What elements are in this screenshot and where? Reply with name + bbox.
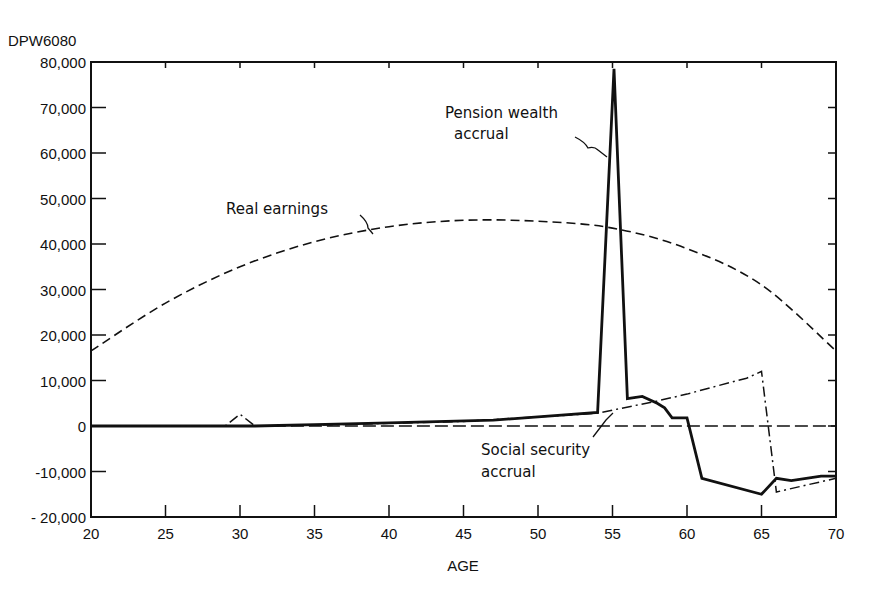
x-tick-label: 45 <box>455 525 472 542</box>
annotation-real-earnings: Real earnings <box>226 200 328 218</box>
y-tick-label: -10,000 <box>35 464 86 481</box>
annotation-ss-line1: Social security <box>481 441 590 459</box>
x-tick-label: 65 <box>753 525 770 542</box>
y-tick-label: 70,000 <box>40 100 86 117</box>
y-axis: 80,00070,00060,00050,00040,00030,00020,0… <box>31 54 836 526</box>
x-tick-label: 30 <box>232 525 249 542</box>
x-tick-label: 40 <box>381 525 398 542</box>
y-tick-label: 50,000 <box>40 191 86 208</box>
y-tick-label: 60,000 <box>40 145 86 162</box>
series-social-security-accrual <box>91 371 836 492</box>
annotation-arrow-ss <box>593 413 613 437</box>
y-tick-label: - 20,000 <box>31 509 86 526</box>
chart: DPW6080 80,00070,00060,00050,00040,00030… <box>0 0 870 601</box>
x-tick-label: 50 <box>530 525 547 542</box>
annotation-ss-line2: accrual <box>481 463 536 481</box>
x-tick-label: 35 <box>306 525 323 542</box>
y-tick-label: 20,000 <box>40 327 86 344</box>
y-tick-label: 80,000 <box>40 54 86 71</box>
x-tick-label: 55 <box>604 525 621 542</box>
annotation-pension-line1: Pension wealth <box>445 104 558 122</box>
figure-id-label: DPW6080 <box>8 32 76 49</box>
x-axis-label: AGE <box>447 557 479 574</box>
y-tick-label: 0 <box>78 418 86 435</box>
x-tick-label: 70 <box>828 525 845 542</box>
annotation-pension-line2: accrual <box>454 125 509 143</box>
y-tick-label: 10,000 <box>40 373 86 390</box>
x-tick-label: 25 <box>157 525 174 542</box>
series-real-earnings <box>91 220 836 351</box>
y-tick-label: 40,000 <box>40 236 86 253</box>
annotation-arrow-pension <box>575 137 607 157</box>
y-tick-label: 30,000 <box>40 282 86 299</box>
x-tick-label: 20 <box>83 525 100 542</box>
x-tick-label: 60 <box>679 525 696 542</box>
